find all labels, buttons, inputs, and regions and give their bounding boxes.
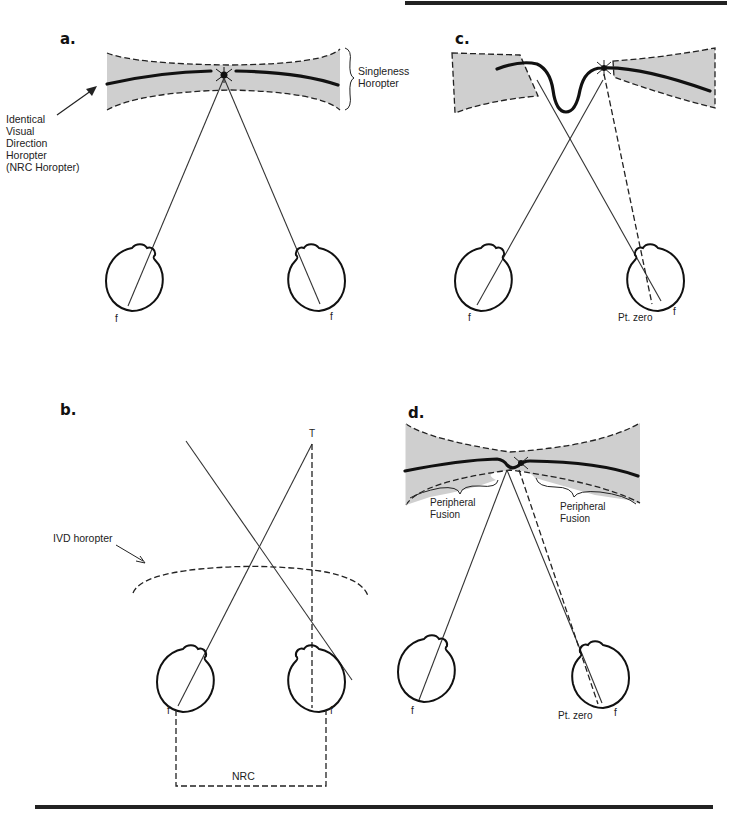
svg-text:Fusion: Fusion — [560, 513, 590, 524]
right-line-of-sight — [537, 80, 661, 301]
target-label: T — [309, 428, 315, 439]
right-eye-icon — [627, 244, 684, 311]
left-eye-icon — [157, 645, 214, 712]
svg-text:Horopter: Horopter — [6, 149, 47, 161]
svg-text:Visual: Visual — [6, 125, 34, 137]
pt-zero-label: Pt. zero — [558, 710, 593, 721]
left-fovea-label: f — [115, 313, 118, 324]
right-eye-icon — [572, 641, 629, 708]
left-eye-icon — [106, 244, 163, 311]
peripheral-fusion-right-label: Peripheral — [560, 501, 606, 512]
right-eye-icon — [288, 244, 345, 311]
right-line-of-sight — [224, 78, 320, 304]
ivd-horopter-label: IVD horopter — [53, 532, 113, 544]
panel-c: c. f Pt. zero f — [452, 30, 715, 323]
right-fovea-label: f — [330, 705, 333, 716]
panel-d: d. Peripheral Fusion Peripheral Fusion f… — [398, 404, 640, 721]
svg-text:Direction: Direction — [6, 137, 48, 149]
left-eye-icon — [455, 244, 512, 311]
panel-c-letter: c. — [455, 30, 470, 48]
panel-a: a. Singleness Horopter Identical Visual — [6, 30, 409, 324]
pt-zero-label: Pt. zero — [618, 312, 653, 323]
arrow-head-icon — [86, 86, 97, 96]
svg-text:Horopter: Horopter — [358, 77, 399, 89]
panel-b: b. T IVD horopter NRC f f — [53, 401, 368, 786]
left-line-of-sight — [477, 80, 603, 305]
singleness-horopter-label: Singleness — [358, 65, 409, 77]
left-fovea-label: f — [167, 705, 170, 716]
panel-d-letter: d. — [408, 404, 424, 422]
peripheral-fusion-left-label: Peripheral — [430, 497, 476, 508]
left-eye-icon — [398, 635, 455, 702]
left-eye-line — [186, 441, 352, 680]
ivd-horopter-arc — [133, 566, 368, 596]
singleness-brace — [345, 48, 354, 110]
horopter-figure: a. Singleness Horopter Identical Visual — [0, 0, 739, 820]
svg-text:(NRC Horopter): (NRC Horopter) — [6, 161, 80, 173]
right-eye-icon — [288, 645, 345, 712]
panel-a-letter: a. — [60, 30, 76, 48]
nrc-label: NRC — [232, 770, 255, 782]
left-fovea-label: f — [468, 312, 471, 323]
right-fovea-label: f — [673, 306, 676, 317]
right-fovea-label: f — [614, 707, 617, 718]
ivd-horopter-label: Identical — [6, 113, 45, 125]
svg-text:Fusion: Fusion — [430, 509, 460, 520]
panel-b-letter: b. — [60, 401, 76, 419]
left-line-of-sight — [128, 78, 224, 306]
ivd-arrow — [116, 545, 143, 561]
left-fovea-label: f — [411, 705, 414, 716]
right-fovea-label: f — [330, 311, 333, 322]
